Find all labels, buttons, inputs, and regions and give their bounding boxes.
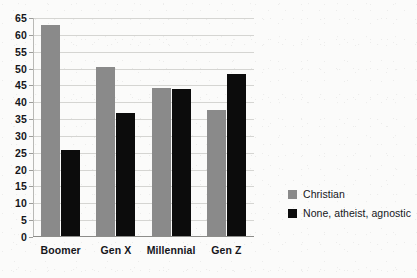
y-axis-tick-label: 5 — [21, 214, 27, 226]
y-axis-tick-label: 15 — [15, 180, 27, 192]
gridline — [33, 69, 254, 70]
gridline — [33, 35, 254, 36]
y-axis-tick-labels: 05101520253035404550556065 — [0, 18, 27, 237]
x-axis-category-label: Boomer — [40, 244, 80, 256]
bar — [116, 113, 135, 236]
x-axis-category-label: Gen X — [100, 244, 131, 256]
y-axis-tick-label: 30 — [15, 130, 27, 142]
y-axis-tick-label: 40 — [15, 96, 27, 108]
legend-label: None, atheist, agnostic — [303, 207, 411, 219]
bar — [96, 67, 115, 236]
bar — [207, 110, 226, 236]
bar — [61, 150, 80, 236]
bar — [41, 25, 60, 236]
x-axis-category-label: Millennial — [147, 244, 196, 256]
y-axis-tick-label: 25 — [15, 147, 27, 159]
y-axis-tickmark — [29, 237, 33, 238]
y-axis-tick-label: 65 — [15, 12, 27, 24]
y-axis-tick-label: 10 — [15, 197, 27, 209]
gridline — [33, 85, 254, 86]
y-axis-tick-label: 60 — [15, 29, 27, 41]
bar — [152, 88, 171, 236]
bar-chart: 05101520253035404550556065 BoomerGen XMi… — [0, 0, 417, 278]
bar — [172, 89, 191, 236]
y-axis-tick-label: 50 — [15, 63, 27, 75]
legend-swatch-icon — [288, 209, 297, 218]
y-axis-tick-label: 0 — [21, 231, 27, 243]
legend-item: Christian — [288, 186, 411, 202]
chart-legend: ChristianNone, atheist, agnostic — [288, 186, 411, 224]
legend-swatch-icon — [288, 190, 297, 199]
x-axis-line — [33, 236, 254, 237]
y-axis-tick-label: 20 — [15, 164, 27, 176]
legend-label: Christian — [303, 188, 345, 200]
y-axis-tick-label: 45 — [15, 79, 27, 91]
plot-area — [33, 18, 254, 237]
y-axis-line — [33, 18, 34, 237]
gridline — [33, 102, 254, 103]
legend-item: None, atheist, agnostic — [288, 205, 411, 221]
y-axis-tick-label: 55 — [15, 46, 27, 58]
x-axis-category-label: Gen Z — [211, 244, 241, 256]
gridline — [33, 52, 254, 53]
bar — [227, 74, 246, 236]
y-axis-tick-label: 35 — [15, 113, 27, 125]
gridline — [33, 18, 254, 19]
